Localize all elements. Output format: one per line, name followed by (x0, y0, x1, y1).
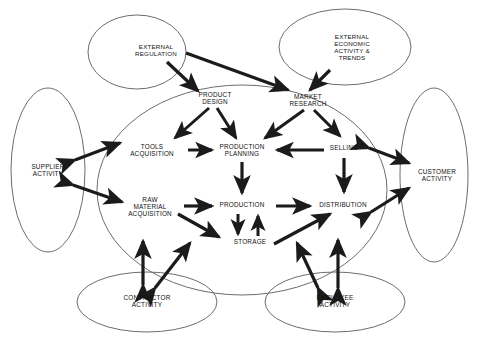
arrow-raw-material-to-storage (178, 214, 219, 237)
arrow-employee-diagonal-exchange (297, 243, 318, 288)
diagram-svg (0, 0, 478, 337)
ellipse-supplier-activity (11, 88, 85, 252)
arrow-storage-to-distribution (274, 214, 330, 244)
arrow-product-design-to-tools (175, 108, 209, 138)
arrow-selling-customer-exchange (369, 148, 409, 163)
arrow-supplier-tools-exchange (75, 143, 120, 160)
arrow-market-research-to-planning (265, 110, 304, 138)
ellipse-contractor-activity (77, 272, 217, 332)
arrow-regulation-to-market-research (186, 53, 288, 90)
arrow-market-research-to-selling (314, 110, 340, 136)
ellipse-customer-activity (400, 88, 468, 262)
arrow-distribution-customer-exchange (371, 188, 409, 212)
arrow-product-design-to-planning (217, 108, 236, 138)
ellipse-external-economic (279, 9, 411, 85)
arrow-contractor-diagonal-exchange (155, 243, 190, 288)
diagram-canvas: EXTERNAL REGULATION EXTERNAL ECONOMIC AC… (0, 0, 478, 337)
ellipse-employee-activity (265, 272, 405, 332)
ellipse-external-regulation (88, 15, 186, 89)
